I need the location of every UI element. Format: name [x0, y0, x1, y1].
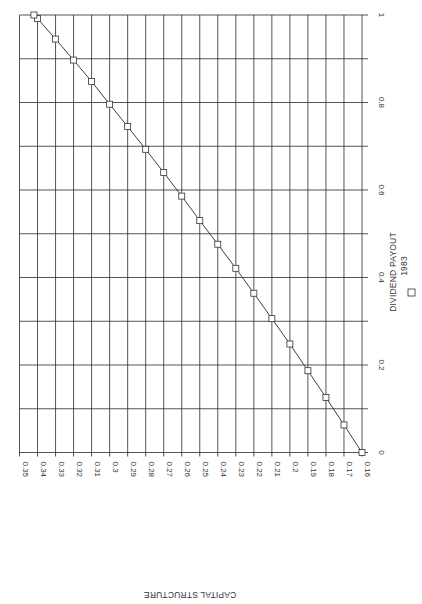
square-marker-icon	[215, 241, 221, 247]
dp-tick: 0	[377, 450, 386, 455]
tick-label: 0.18	[327, 462, 336, 478]
square-marker-icon	[161, 170, 167, 176]
square-marker-icon	[107, 101, 113, 107]
square-marker-icon	[269, 316, 275, 322]
tick-label: 0.23	[237, 462, 246, 478]
tick-label: 0.25	[201, 462, 210, 478]
tick-label: 0.24	[219, 462, 228, 478]
legend-square-marker-icon	[408, 289, 415, 296]
legend: 1983	[399, 256, 415, 296]
cs-tick: 0.3	[111, 462, 120, 474]
cs-tick: 0.2	[291, 462, 300, 474]
tick-label: 0.17	[345, 462, 354, 478]
cs-tick: 0.25	[201, 462, 210, 478]
x-axis-title: DIVIDEND PAYOUT	[388, 232, 398, 312]
dp-tick: 0.6	[377, 184, 386, 196]
tick-label: 0.29	[129, 462, 138, 478]
dp-tick: 0.4	[377, 272, 386, 284]
tick-label: 1	[377, 13, 386, 18]
tick-label: 0.3	[111, 462, 120, 474]
tick-label: 0.21	[273, 462, 282, 478]
legend-label: 1983	[399, 256, 409, 276]
tick-label: 0.6	[377, 184, 386, 196]
y-axis-title: CAPITAL STRUCTURE	[144, 590, 237, 600]
cs-tick: 0.21	[273, 462, 282, 478]
tick-label: 0.28	[147, 462, 156, 478]
cs-tick: 0.31	[93, 462, 102, 478]
square-marker-icon	[31, 12, 37, 18]
cs-tick: 0.32	[75, 462, 84, 478]
cs-tick: 0.29	[129, 462, 138, 478]
square-marker-icon	[179, 193, 185, 199]
tick-label: 0.34	[39, 462, 48, 478]
square-marker-icon	[125, 124, 131, 130]
dp-tick: 0.8	[377, 97, 386, 109]
tick-label: 0.2	[291, 462, 300, 474]
cs-tick: 0.17	[345, 462, 354, 478]
square-marker-icon	[143, 146, 149, 152]
cs-tick: 0.33	[57, 462, 66, 478]
square-marker-icon	[53, 36, 59, 42]
cs-tick: 0.19	[309, 462, 318, 478]
cs-tick: 0.35	[21, 462, 30, 478]
tick-label: 0.27	[165, 462, 174, 478]
tick-label: 0.33	[57, 462, 66, 478]
tick-label: 0.31	[93, 462, 102, 478]
tick-label: 0.8	[377, 97, 386, 109]
tick-label: 0.26	[183, 462, 192, 478]
chart-canvas: 0.350.340.330.320.310.30.290.280.270.260…	[0, 0, 422, 604]
square-marker-icon	[305, 368, 311, 374]
square-marker-icon	[89, 79, 95, 85]
tick-label: 0.19	[309, 462, 318, 478]
tick-label: 0.35	[21, 462, 30, 478]
square-marker-icon	[71, 57, 77, 63]
dividend-payout-tick-labels: 00.20.40.60.81	[377, 13, 386, 456]
cs-tick: 0.16	[363, 462, 372, 478]
capital-structure-gridlines	[20, 15, 363, 457]
dp-tick: 0.2	[377, 359, 386, 371]
cs-tick: 0.27	[165, 462, 174, 478]
tick-label: 0.4	[377, 272, 386, 284]
square-marker-icon	[197, 218, 203, 224]
cs-tick: 0.23	[237, 462, 246, 478]
dp-tick: 1	[377, 13, 386, 18]
y-axis-title-group: CAPITAL STRUCTURE	[144, 590, 237, 600]
tick-label: 0.22	[255, 462, 264, 478]
x-axis-title-group: DIVIDEND PAYOUT	[388, 232, 398, 312]
tick-label: 0.16	[363, 462, 372, 478]
square-marker-icon	[323, 394, 329, 400]
square-marker-icon	[359, 450, 365, 456]
tick-label: 0.32	[75, 462, 84, 478]
cs-tick: 0.22	[255, 462, 264, 478]
square-marker-icon	[287, 341, 293, 347]
cs-tick: 0.34	[39, 462, 48, 478]
tick-label: 0.2	[377, 359, 386, 371]
cs-tick: 0.18	[327, 462, 336, 478]
cs-tick: 0.24	[219, 462, 228, 478]
capital-structure-tick-labels: 0.350.340.330.320.310.30.290.280.270.260…	[21, 462, 373, 478]
dividend-payout-gridlines	[20, 15, 369, 453]
cs-tick: 0.26	[183, 462, 192, 478]
square-marker-icon	[233, 265, 239, 271]
square-marker-icon	[341, 422, 347, 428]
square-marker-icon	[251, 290, 257, 296]
cs-tick: 0.28	[147, 462, 156, 478]
tick-label: 0	[377, 450, 386, 455]
